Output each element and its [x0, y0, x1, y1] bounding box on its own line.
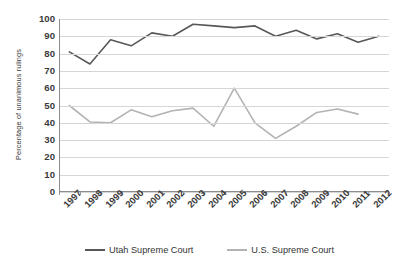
- line-chart: Percentage of unanimous rulings 01020304…: [0, 0, 419, 266]
- x-tickmark: [59, 192, 60, 195]
- series-line-u-s-supreme-court: [69, 88, 358, 138]
- gridline: [59, 54, 389, 55]
- y-axis-title: Percentage of unanimous rulings: [14, 25, 23, 185]
- gridline: [59, 19, 389, 20]
- y-tick-label: 30: [44, 135, 55, 145]
- x-axis-tick-labels: 1997199819992000200120022003200420052006…: [59, 196, 389, 240]
- legend-swatch-icon: [227, 249, 247, 251]
- y-axis-tick-labels: 0102030405060708090100: [24, 0, 55, 266]
- y-tick-label: 10: [44, 170, 55, 180]
- legend-item[interactable]: Utah Supreme Court: [85, 245, 193, 255]
- y-tick-label: 60: [44, 83, 55, 93]
- y-tick-label: 80: [44, 49, 55, 59]
- gridline: [59, 106, 389, 107]
- series-line-utah-supreme-court: [69, 24, 378, 64]
- legend-label: U.S. Supreme Court: [251, 245, 334, 255]
- y-tick-label: 50: [44, 101, 55, 111]
- gridline: [59, 140, 389, 141]
- y-tick-label: 70: [44, 66, 55, 76]
- y-axis-line: [59, 19, 60, 192]
- y-tick-label: 40: [44, 118, 55, 128]
- gridline: [59, 175, 389, 176]
- gridline: [59, 123, 389, 124]
- legend-label: Utah Supreme Court: [109, 245, 193, 255]
- y-tick-label: 100: [39, 14, 55, 24]
- gridline: [59, 157, 389, 158]
- y-tick-label: 90: [44, 32, 55, 42]
- chart-legend: Utah Supreme CourtU.S. Supreme Court: [0, 240, 419, 260]
- gridline: [59, 36, 389, 37]
- gridline: [59, 71, 389, 72]
- legend-swatch-icon: [85, 249, 105, 251]
- gridline: [59, 88, 389, 89]
- plot-area: [59, 19, 389, 192]
- y-tick-label: 0: [50, 187, 55, 197]
- y-tick-label: 20: [44, 153, 55, 163]
- legend-item[interactable]: U.S. Supreme Court: [227, 245, 334, 255]
